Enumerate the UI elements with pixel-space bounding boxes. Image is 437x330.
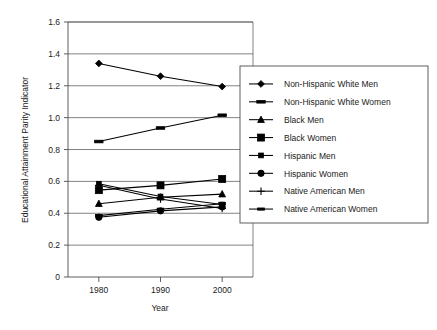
data-point-marker	[157, 208, 164, 210]
legend-marker	[258, 170, 264, 176]
legend-marker	[258, 134, 265, 141]
y-tick-label: 0.6	[48, 176, 60, 186]
data-point-marker	[219, 83, 226, 90]
data-point-marker	[95, 60, 102, 67]
y-tick-label: 0.2	[48, 240, 60, 250]
chart-container: 00.20.40.60.81.01.21.41.6 198019902000 N…	[0, 0, 437, 330]
data-point-marker	[219, 203, 226, 205]
legend-box	[240, 66, 428, 223]
data-point-marker	[156, 127, 164, 130]
legend-marker	[259, 153, 264, 158]
x-axis-ticks: 198019902000	[89, 277, 232, 295]
legend-marker	[257, 101, 265, 104]
y-tick-label: 1.6	[48, 17, 60, 27]
y-axis-ticks: 00.20.40.60.81.01.21.41.6	[48, 17, 68, 282]
legend-marker	[258, 208, 265, 210]
y-tick-label: 1.4	[48, 49, 60, 59]
legend-label: Native American Women	[284, 204, 378, 214]
y-tick-label: 1.2	[48, 81, 60, 91]
data-point-marker	[219, 175, 226, 182]
x-tick-label: 1980	[89, 285, 108, 295]
legend-item-black-women[interactable]: Black Women	[249, 133, 337, 143]
legend-label: Black Women	[284, 133, 337, 143]
series-black-women	[95, 175, 225, 193]
educational-parity-line-chart: 00.20.40.60.81.01.21.41.6 198019902000 N…	[0, 0, 437, 330]
data-point-marker	[95, 140, 103, 143]
data-point-marker	[157, 73, 164, 80]
data-point-marker	[218, 114, 226, 117]
y-axis-title: Educational Attainment Parity Indicator	[20, 77, 30, 223]
legend-label: Black Men	[284, 115, 324, 125]
x-axis-title: Year	[151, 303, 168, 313]
series-non-hispanic-white-women	[95, 114, 227, 143]
legend-label: Non-Hispanic White Women	[284, 97, 391, 107]
chart-legend[interactable]: Non-Hispanic White MenNon-Hispanic White…	[240, 66, 428, 223]
x-tick-label: 2000	[213, 285, 232, 295]
series-native-american-women	[95, 203, 225, 217]
data-series	[95, 60, 227, 220]
y-tick-label: 0.4	[48, 208, 60, 218]
legend-label: Hispanic Men	[284, 151, 336, 161]
y-tick-label: 0.8	[48, 145, 60, 155]
y-tick-label: 1.0	[48, 113, 60, 123]
data-point-marker	[95, 215, 102, 217]
legend-label: Hispanic Women	[284, 169, 348, 179]
data-point-marker	[157, 182, 164, 189]
legend-label: Native American Men	[284, 186, 365, 196]
y-tick-label: 0	[55, 272, 60, 282]
legend-label: Non-Hispanic White Men	[284, 79, 378, 89]
x-tick-label: 1990	[151, 285, 170, 295]
